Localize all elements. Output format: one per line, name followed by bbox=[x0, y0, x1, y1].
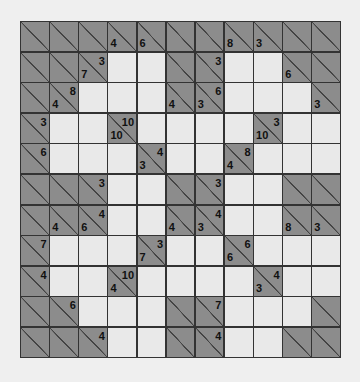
across-clue: 3 bbox=[157, 239, 163, 250]
entry-cell[interactable] bbox=[108, 297, 136, 326]
entry-cell[interactable] bbox=[254, 175, 282, 204]
entry-cell[interactable] bbox=[283, 114, 311, 143]
entry-cell[interactable] bbox=[50, 236, 78, 265]
clue-cell: 3 bbox=[79, 175, 107, 204]
entry-cell[interactable] bbox=[138, 53, 166, 82]
entry-cell[interactable] bbox=[138, 206, 166, 235]
entry-cell[interactable] bbox=[138, 267, 166, 296]
clue-cell bbox=[167, 297, 195, 326]
clue-cell bbox=[196, 22, 224, 51]
entry-cell[interactable] bbox=[312, 236, 340, 265]
entry-cell[interactable] bbox=[225, 175, 253, 204]
entry-cell[interactable] bbox=[50, 267, 78, 296]
across-clue: 6 bbox=[215, 86, 221, 97]
entry-cell[interactable] bbox=[225, 206, 253, 235]
entry-cell[interactable] bbox=[108, 83, 136, 112]
entry-cell[interactable] bbox=[225, 328, 253, 357]
clue-cell: 48 bbox=[50, 83, 78, 112]
across-clue: 10 bbox=[122, 117, 134, 128]
clue-cell: 3 bbox=[312, 83, 340, 112]
down-clue: 4 bbox=[52, 222, 58, 233]
entry-cell[interactable] bbox=[167, 144, 195, 173]
clue-cell: 64 bbox=[79, 206, 107, 235]
clue-cell: 4 bbox=[79, 328, 107, 357]
clue-cell bbox=[283, 22, 311, 51]
entry-cell[interactable] bbox=[225, 53, 253, 82]
across-clue: 7 bbox=[215, 300, 221, 311]
entry-cell[interactable] bbox=[138, 297, 166, 326]
entry-cell[interactable] bbox=[283, 83, 311, 112]
across-clue: 3 bbox=[215, 178, 221, 189]
clue-cell: 6 bbox=[21, 144, 49, 173]
entry-cell[interactable] bbox=[283, 236, 311, 265]
entry-cell[interactable] bbox=[108, 206, 136, 235]
clue-cell bbox=[21, 206, 49, 235]
entry-cell[interactable] bbox=[108, 175, 136, 204]
entry-cell[interactable] bbox=[50, 144, 78, 173]
down-clue: 4 bbox=[169, 222, 175, 233]
entry-cell[interactable] bbox=[79, 236, 107, 265]
across-clue: 3 bbox=[99, 56, 105, 67]
clue-cell bbox=[283, 175, 311, 204]
clue-cell: 66 bbox=[225, 236, 253, 265]
across-clue: 7 bbox=[41, 239, 47, 250]
entry-cell[interactable] bbox=[196, 114, 224, 143]
clue-cell: 8 bbox=[225, 22, 253, 51]
entry-cell[interactable] bbox=[225, 297, 253, 326]
entry-cell[interactable] bbox=[138, 114, 166, 143]
entry-cell[interactable] bbox=[196, 267, 224, 296]
entry-cell[interactable] bbox=[225, 267, 253, 296]
entry-cell[interactable] bbox=[108, 53, 136, 82]
clue-cell: 3 bbox=[196, 53, 224, 82]
entry-cell[interactable] bbox=[79, 297, 107, 326]
entry-cell[interactable] bbox=[79, 144, 107, 173]
down-clue: 7 bbox=[81, 69, 87, 80]
entry-cell[interactable] bbox=[254, 53, 282, 82]
entry-cell[interactable] bbox=[108, 144, 136, 173]
entry-cell[interactable] bbox=[254, 328, 282, 357]
down-clue: 7 bbox=[140, 252, 146, 263]
across-clue: 6 bbox=[244, 239, 250, 250]
entry-cell[interactable] bbox=[138, 328, 166, 357]
clue-cell bbox=[167, 175, 195, 204]
down-clue: 6 bbox=[227, 252, 233, 263]
across-clue: 4 bbox=[274, 270, 280, 281]
entry-cell[interactable] bbox=[283, 297, 311, 326]
entry-cell[interactable] bbox=[196, 236, 224, 265]
entry-cell[interactable] bbox=[283, 267, 311, 296]
across-clue: 6 bbox=[70, 300, 76, 311]
entry-cell[interactable] bbox=[312, 144, 340, 173]
entry-cell[interactable] bbox=[167, 236, 195, 265]
clue-cell: 6 bbox=[138, 22, 166, 51]
entry-cell[interactable] bbox=[254, 144, 282, 173]
entry-cell[interactable] bbox=[167, 114, 195, 143]
entry-cell[interactable] bbox=[79, 114, 107, 143]
across-clue: 8 bbox=[70, 86, 76, 97]
entry-cell[interactable] bbox=[312, 267, 340, 296]
clue-cell: 4 bbox=[196, 328, 224, 357]
entry-cell[interactable] bbox=[108, 328, 136, 357]
entry-cell[interactable] bbox=[138, 175, 166, 204]
clue-cell: 103 bbox=[254, 114, 282, 143]
entry-cell[interactable] bbox=[196, 144, 224, 173]
entry-cell[interactable] bbox=[108, 236, 136, 265]
entry-cell[interactable] bbox=[79, 83, 107, 112]
entry-cell[interactable] bbox=[225, 83, 253, 112]
entry-cell[interactable] bbox=[50, 114, 78, 143]
entry-cell[interactable] bbox=[138, 83, 166, 112]
across-clue: 4 bbox=[99, 331, 105, 342]
entry-cell[interactable] bbox=[225, 114, 253, 143]
entry-cell[interactable] bbox=[312, 114, 340, 143]
clue-cell: 34 bbox=[138, 144, 166, 173]
clue-cell: 3 bbox=[312, 206, 340, 235]
down-clue: 10 bbox=[110, 130, 122, 141]
entry-cell[interactable] bbox=[79, 267, 107, 296]
entry-cell[interactable] bbox=[254, 83, 282, 112]
entry-cell[interactable] bbox=[254, 297, 282, 326]
entry-cell[interactable] bbox=[283, 144, 311, 173]
entry-cell[interactable] bbox=[254, 236, 282, 265]
entry-cell[interactable] bbox=[167, 267, 195, 296]
clue-cell: 4 bbox=[21, 267, 49, 296]
clue-cell: 34 bbox=[196, 206, 224, 235]
entry-cell[interactable] bbox=[254, 206, 282, 235]
